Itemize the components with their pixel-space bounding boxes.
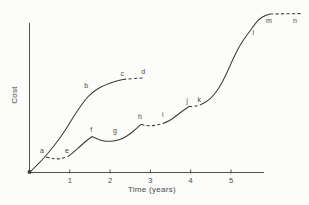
axes: 12345 <box>28 23 264 185</box>
evolving-system-cost-curve-segment-1-solid <box>68 136 92 156</box>
x-axis-label: Time (years) <box>128 185 176 194</box>
evolving-system-cost-curve-segment-3-dashed <box>141 124 163 126</box>
point-label-h: h <box>138 113 142 120</box>
x-tick-label-2: 2 <box>108 176 112 185</box>
chart-canvas: 12345 abcdefghijklmn Cost Time (years) <box>0 0 309 205</box>
cost-over-time-figure: 12345 abcdefghijklmn Cost Time (years) <box>0 0 309 205</box>
point-labels: abcdefghijklmn <box>40 17 297 155</box>
point-label-m: m <box>266 17 272 24</box>
point-label-c: c <box>120 70 124 77</box>
evolving-system-cost-curve-segment-0-dashed <box>46 157 68 159</box>
point-label-j: j <box>185 97 188 105</box>
curves <box>30 14 303 173</box>
x-tick-label-1: 1 <box>68 176 72 185</box>
x-tick-label-3: 3 <box>148 176 152 185</box>
point-label-f: f <box>90 126 92 133</box>
x-tick-label-4: 4 <box>189 176 193 185</box>
point-label-k: k <box>197 96 201 103</box>
point-label-n: n <box>293 17 297 24</box>
evolving-system-cost-curve-segment-5-dashed <box>189 105 201 107</box>
point-label-e: e <box>65 147 69 154</box>
point-label-i: i <box>162 111 164 118</box>
first-system-cost-curve-segment-0-solid <box>30 79 123 172</box>
point-label-b: b <box>84 82 88 89</box>
point-label-d: d <box>141 68 145 75</box>
first-system-cost-curve-segment-1-dashed <box>123 78 143 79</box>
point-label-g: g <box>113 127 117 135</box>
point-label-a: a <box>40 147 44 154</box>
evolving-system-cost-curve-segment-4-solid <box>163 106 189 123</box>
x-tick-label-5: 5 <box>229 176 233 185</box>
point-label-l: l <box>252 29 254 36</box>
y-axis-label: Cost <box>10 86 19 104</box>
evolving-system-cost-curve-segment-6-solid <box>201 14 270 105</box>
